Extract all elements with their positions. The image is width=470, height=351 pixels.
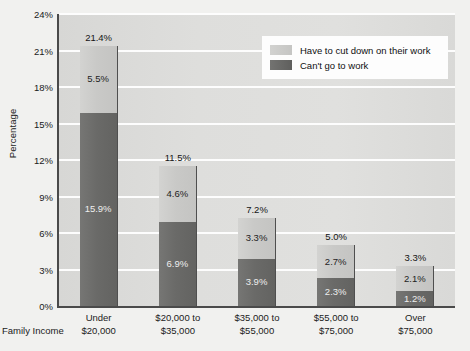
bar-segment-cut-down[interactable]: 2.1%	[396, 266, 434, 292]
bar-group[interactable]: 6.9%4.6%11.5%$20,000 to$35,000	[159, 166, 197, 306]
x-axis-tick: Under$20,000	[54, 312, 144, 337]
legend-label-cant-work: Can't go to work	[300, 60, 368, 71]
bar-segment-cut-down[interactable]: 2.7%	[317, 245, 355, 278]
y-axis-tick: 24%	[34, 9, 53, 20]
bar-segment-value: 6.9%	[159, 258, 196, 269]
bar-group[interactable]: 2.3%2.7%5.0%$55,000 to$75,000	[317, 245, 355, 306]
bar-segment-cant-work[interactable]: 1.2%	[396, 291, 434, 306]
x-axis-tick-line: $55,000	[212, 325, 302, 338]
bar-segment-cut-down[interactable]: 3.3%	[238, 218, 276, 258]
x-axis-tick-line: $20,000	[54, 325, 144, 338]
y-axis-tick: 12%	[34, 155, 53, 166]
y-axis-tick: 0%	[39, 301, 53, 312]
legend-item-cut-down: Have to cut down on their work	[270, 43, 439, 57]
bar-segment-value: 4.6%	[159, 188, 196, 199]
x-axis-tick: $20,000 to$35,000	[133, 312, 223, 337]
y-axis-tick: 15%	[34, 118, 53, 129]
x-axis-tick-line: $75,000	[291, 325, 381, 338]
bar-segment-cant-work[interactable]: 2.3%	[317, 278, 355, 306]
bar-segment-value: 5.5%	[80, 73, 117, 84]
bar-total-value: 7.2%	[224, 204, 290, 215]
bar-segment-cant-work[interactable]: 3.9%	[238, 259, 276, 306]
gridline	[59, 13, 455, 15]
y-axis-tick: 21%	[34, 45, 53, 56]
bar-segment-value: 3.3%	[238, 232, 275, 243]
bar-total-value: 3.3%	[382, 252, 448, 263]
x-axis-tick-line: $20,000 to	[133, 312, 223, 325]
bar-group[interactable]: 1.2%2.1%3.3%Over$75,000	[396, 266, 434, 306]
bar-total-value: 21.4%	[66, 32, 132, 43]
x-axis-label: Family Income	[2, 325, 64, 336]
x-axis-tick-line: $75,000	[370, 325, 460, 338]
gridline	[59, 159, 455, 161]
x-axis-tick-line: $35,000 to	[212, 312, 302, 325]
x-axis-tick: Over$75,000	[370, 312, 460, 337]
y-axis-tick: 3%	[39, 264, 53, 275]
x-axis-tick-line: $35,000	[133, 325, 223, 338]
bar-segment-cut-down[interactable]: 5.5%	[80, 46, 118, 113]
y-axis-tick: 6%	[39, 228, 53, 239]
y-axis-tick: 18%	[34, 82, 53, 93]
bar-segment-cut-down[interactable]: 4.6%	[159, 166, 197, 222]
y-axis-label: Percentage	[7, 84, 18, 184]
gridline	[59, 123, 455, 125]
bar-segment-value: 3.9%	[238, 276, 275, 287]
legend-swatch-dark-icon	[270, 60, 292, 70]
legend-label-cut-down: Have to cut down on their work	[300, 45, 430, 56]
x-axis-tick-line: Under	[54, 312, 144, 325]
bar-group[interactable]: 3.9%3.3%7.2%$35,000 to$55,000	[238, 218, 276, 306]
gridline	[59, 86, 455, 88]
bar-segment-cant-work[interactable]: 6.9%	[159, 222, 197, 306]
bar-segment-cant-work[interactable]: 15.9%	[80, 113, 118, 306]
legend-item-cant-work: Can't go to work	[270, 58, 439, 72]
bar-segment-value: 2.1%	[396, 273, 433, 284]
bar-segment-value: 15.9%	[80, 203, 117, 214]
gridline	[59, 196, 455, 198]
bar-segment-value: 2.7%	[317, 256, 354, 267]
chart-figure: Percentage 0%3%6%9%12%15%18%21%24%15.9%5…	[0, 0, 470, 351]
bar-total-value: 11.5%	[145, 152, 211, 163]
bar-group[interactable]: 15.9%5.5%21.4%Under$20,000	[80, 46, 118, 306]
x-axis-tick-line: Over	[370, 312, 460, 325]
x-axis-tick: $35,000 to$55,000	[212, 312, 302, 337]
y-axis-tick: 9%	[39, 191, 53, 202]
legend: Have to cut down on their work Can't go …	[262, 36, 448, 79]
bar-total-value: 5.0%	[303, 231, 369, 242]
x-axis-tick: $55,000 to$75,000	[291, 312, 381, 337]
bar-segment-value: 2.3%	[317, 286, 354, 297]
bar-segment-value: 1.2%	[396, 293, 433, 304]
x-axis-tick-line: $55,000 to	[291, 312, 381, 325]
legend-swatch-light-icon	[270, 45, 292, 55]
